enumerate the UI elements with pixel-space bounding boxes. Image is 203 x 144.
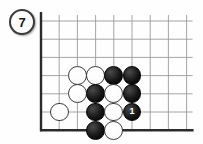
go-diagram: 7 1: [0, 0, 203, 144]
stone-white: [104, 121, 123, 140]
stone-white: [68, 66, 87, 85]
stone-white: [86, 66, 105, 85]
stone-white: [68, 84, 87, 103]
stone-black: [86, 121, 105, 140]
stone-move-number: 1: [129, 107, 134, 116]
stone-black: [123, 66, 142, 85]
stone-white: [50, 103, 69, 122]
stone-black: [86, 103, 105, 122]
